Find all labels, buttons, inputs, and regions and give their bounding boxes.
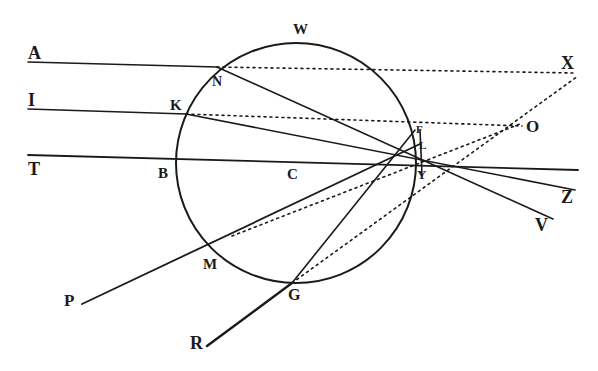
label-I: I bbox=[28, 90, 35, 110]
label-G: G bbox=[288, 286, 301, 303]
axis-T-B-C bbox=[28, 155, 578, 170]
label-K: K bbox=[170, 97, 182, 113]
label-L: L bbox=[419, 139, 426, 151]
label-M: M bbox=[203, 256, 217, 272]
ray-G-F bbox=[292, 130, 415, 283]
label-P: P bbox=[64, 291, 74, 310]
label-F: F bbox=[416, 123, 423, 135]
ray-A-N bbox=[28, 62, 217, 67]
dotted-M-O bbox=[232, 124, 520, 236]
ray-R-G-F bbox=[207, 283, 292, 346]
ray-I-K bbox=[28, 109, 186, 114]
dotted-G-X bbox=[292, 76, 578, 283]
label-B: B bbox=[158, 165, 168, 181]
label-Y: Y bbox=[417, 167, 427, 182]
dotted-N-X bbox=[217, 67, 575, 73]
ray-P-M-L bbox=[82, 144, 420, 304]
label-V: V bbox=[535, 215, 548, 235]
label-W: W bbox=[293, 21, 308, 37]
label-O: O bbox=[526, 117, 539, 136]
label-A: A bbox=[28, 43, 41, 63]
label-C: C bbox=[287, 166, 298, 182]
label-T: T bbox=[28, 159, 40, 179]
rainbow-diagram: A I T N K B C W F L Y X O Z V M G P R bbox=[0, 0, 598, 371]
label-X: X bbox=[561, 53, 574, 73]
label-Z: Z bbox=[561, 187, 573, 207]
label-R: R bbox=[190, 333, 204, 353]
label-N: N bbox=[212, 74, 222, 89]
ray-N-F-V bbox=[217, 67, 553, 219]
